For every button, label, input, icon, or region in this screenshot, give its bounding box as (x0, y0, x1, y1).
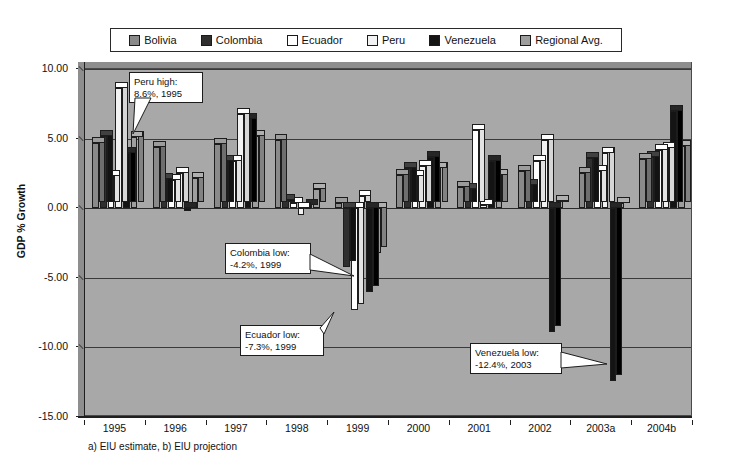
bar-side-face (426, 160, 432, 202)
bar-side-face (122, 82, 128, 202)
bar-side-face (236, 155, 242, 202)
y-axis-labels: 10.005.000.00-5.00-10.00-15.00 (0, 0, 78, 474)
gridline (85, 69, 691, 70)
legend-item-venezuela[interactable]: Venezuela (429, 35, 495, 46)
x-axis-tick (84, 420, 85, 425)
x-axis-tick (570, 420, 571, 425)
x-axis-tick (145, 420, 146, 425)
gridline (85, 139, 691, 140)
bar-side-face (434, 151, 440, 203)
bar-bolivia-2003a[interactable] (579, 173, 586, 208)
bar-bolivia-1999[interactable] (335, 203, 342, 209)
bar-side-face (221, 138, 227, 202)
bar-bolivia-2002[interactable] (518, 171, 525, 209)
x-axis-tick-label: 2003a (586, 423, 615, 434)
legend-item-label: Peru (382, 35, 405, 46)
bar-side-face (411, 162, 417, 202)
legend-item-label: Ecuador (302, 35, 343, 46)
bar-side-face (259, 130, 265, 202)
bar-ecuador-1998[interactable] (290, 203, 297, 209)
bar-side-face (442, 162, 448, 202)
callout-ecuador-low: Ecuador low: -7.3%, 1999 (240, 325, 324, 356)
bar-bolivia-2004b[interactable] (639, 159, 646, 208)
bar-side-face (662, 144, 668, 202)
bar-bolivia-2001[interactable] (457, 187, 464, 208)
bar-side-face (685, 140, 691, 203)
bar-bolivia-2000[interactable] (396, 175, 403, 208)
bar-side-face (540, 155, 546, 202)
bar-bolivia-1995[interactable] (92, 143, 99, 208)
x-axis-tick (510, 420, 511, 425)
legend-item-bolivia[interactable]: Bolivia (129, 35, 176, 46)
x-axis-tick-label: 1999 (346, 423, 369, 434)
bar-side-face (251, 113, 257, 202)
bar-venezuela-1999[interactable] (366, 208, 373, 292)
x-axis-tick (327, 420, 328, 425)
x-axis-tick (692, 420, 693, 425)
bar-venezuela-1996[interactable] (184, 208, 191, 211)
legend-item-label: Regional Avg. (535, 35, 603, 46)
x-axis-tick (206, 420, 207, 425)
x-axis-tick-label: 1998 (285, 423, 308, 434)
bar-peru-2001[interactable] (480, 205, 487, 208)
bar-side-face (646, 153, 652, 202)
x-axis-line (78, 416, 692, 418)
legend-swatch-icon (367, 35, 378, 46)
legend-item-colombia[interactable]: Colombia (201, 35, 262, 46)
bar-side-face (373, 202, 379, 286)
legend-item-label: Venezuela (444, 35, 495, 46)
y-axis-tick-label: -10.00 (38, 341, 68, 351)
legend-swatch-icon (429, 35, 440, 46)
chart-legend: BoliviaColombiaEcuadorPeruVenezuelaRegio… (110, 28, 622, 52)
bar-side-face (99, 137, 105, 202)
gridline (85, 347, 691, 348)
y-axis-tick-label: 0.00 (48, 202, 68, 212)
bar-side-face (677, 105, 683, 202)
bar-side-face (381, 202, 387, 247)
y-axis-tick-label: 5.00 (48, 133, 68, 143)
x-axis-labels: 199519961997199819992000200120022003a200… (84, 420, 692, 442)
bar-peru-1998[interactable] (298, 208, 305, 215)
legend-item-peru[interactable]: Peru (367, 35, 405, 46)
legend-item-label: Bolivia (144, 35, 176, 46)
y-axis-tick-label: -5.00 (44, 272, 68, 282)
callout-leader-venezuela (561, 350, 609, 376)
gridline (85, 208, 691, 209)
bar-side-face (138, 131, 144, 202)
y-axis-tick-label: -15.00 (38, 411, 68, 421)
callout-leader-ecuador (320, 300, 364, 334)
callout-leader-colombia (310, 252, 356, 278)
bar-side-face (281, 134, 287, 202)
legend-swatch-icon (520, 35, 531, 46)
x-axis-tick (449, 420, 450, 425)
legend-swatch-icon (201, 35, 212, 46)
callout-leader-peru (129, 98, 169, 136)
bar-side-face (593, 152, 599, 202)
legend-item-ecuador[interactable]: Ecuador (287, 35, 343, 46)
x-axis-tick-label: 2000 (407, 423, 430, 434)
bar-bolivia-1997[interactable] (214, 144, 221, 208)
bar-venezuela-2002[interactable] (549, 208, 556, 332)
chart-footnote: a) EIU estimate, b) EIU projection (88, 441, 237, 452)
bar-bolivia-1998[interactable] (275, 140, 282, 208)
bar-side-face (479, 124, 485, 202)
legend-swatch-icon (129, 35, 140, 46)
gridline (85, 278, 691, 279)
x-axis-tick (631, 420, 632, 425)
x-axis-tick-label: 2001 (468, 423, 491, 434)
bar-side-face (228, 155, 234, 202)
bar-bolivia-1996[interactable] (153, 147, 160, 208)
bar-side-face (669, 142, 675, 202)
y-axis-line (84, 62, 85, 416)
legend-item-regional-avg[interactable]: Regional Avg. (520, 35, 603, 46)
x-axis-tick-label: 2004b (647, 423, 676, 434)
bar-side-face (160, 141, 166, 202)
chart-canvas: BoliviaColombiaEcuadorPeruVenezuelaRegio… (0, 0, 734, 474)
bar-side-face (107, 130, 113, 202)
x-axis-tick-label: 2002 (528, 423, 551, 434)
legend-item-label: Colombia (216, 35, 262, 46)
bar-side-face (130, 147, 136, 203)
y-axis-tick-label: 10.00 (42, 63, 68, 73)
legend-swatch-icon (287, 35, 298, 46)
bar-side-face (609, 147, 615, 203)
